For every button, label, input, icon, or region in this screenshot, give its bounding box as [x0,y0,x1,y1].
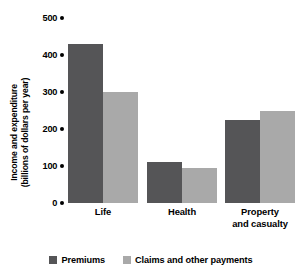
legend-item: Claims and other payments [123,255,252,265]
bar-premiums [147,162,182,203]
y-axis-tick: 0 [52,197,64,209]
bar-group [147,18,217,203]
bar-premiums [225,120,260,203]
legend-swatch-icon [49,256,57,264]
y-axis-tick: 100 [42,160,64,172]
y-axis-tick-label: 500 [42,12,57,24]
y-axis-tick: 500 [42,12,64,24]
bar-premiums [68,44,103,203]
x-axis-label: Life [68,206,138,218]
y-axis-tick-label: 200 [42,123,57,135]
plot-area [68,18,296,203]
x-axis-labels: LifeHealthProperty and casualty [68,206,296,240]
y-axis-tick-dot-icon [60,16,64,20]
y-axis-tick-label: 400 [42,49,57,61]
bar-claims [182,168,217,203]
x-axis-label: Health [147,206,217,218]
y-axis-tick-dot-icon [60,164,64,168]
y-axis-title: Income and expenditure (billions of doll… [9,53,30,213]
y-axis-tick-dot-icon [60,53,64,57]
y-axis-tick-dot-icon [60,127,64,131]
y-axis-tick: 200 [42,123,64,135]
chart-legend: PremiumsClaims and other payments [0,255,302,265]
bar-claims [260,111,295,204]
y-axis-tick-label: 0 [52,197,57,209]
bar-claims [103,92,138,203]
legend-label: Claims and other payments [135,255,252,265]
y-axis-tick: 300 [42,86,64,98]
y-axis-ticks: 5004003002001000 [36,0,64,280]
y-axis-tick-label: 100 [42,160,57,172]
legend-label: Premiums [61,255,105,265]
bar-group [68,18,138,203]
legend-swatch-icon [123,256,131,264]
y-axis-tick-label: 300 [42,86,57,98]
y-axis-tick-dot-icon [60,90,64,94]
y-axis-tick: 400 [42,49,64,61]
bar-group [225,18,295,203]
x-axis-label: Property and casualty [225,206,295,229]
bar-chart: Income and expenditure (billions of doll… [0,0,302,280]
y-axis-tick-dot-icon [60,201,64,205]
legend-item: Premiums [49,255,105,265]
